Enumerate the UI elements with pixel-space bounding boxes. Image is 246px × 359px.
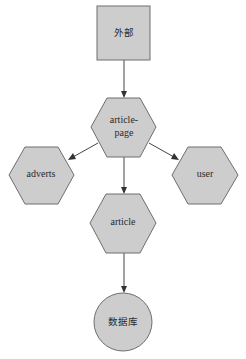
node-label: user bbox=[197, 168, 214, 179]
dependency-diagram: 外部 article- page adverts user article 数据… bbox=[0, 0, 246, 359]
node-label: adverts bbox=[27, 168, 56, 179]
node-database[interactable]: 数据库 bbox=[94, 293, 152, 351]
edge-article-page-to-adverts bbox=[73, 143, 98, 157]
node-label: 数据库 bbox=[108, 316, 138, 327]
node-article[interactable]: article bbox=[90, 194, 156, 253]
node-adverts[interactable]: adverts bbox=[9, 147, 74, 204]
edge-article-page-to-user bbox=[149, 143, 174, 157]
node-external[interactable]: 外部 bbox=[97, 6, 150, 60]
node-label-line-1: article- bbox=[110, 114, 138, 125]
edges bbox=[68, 60, 179, 293]
arrowhead-article bbox=[121, 187, 127, 194]
node-article-page[interactable]: article- page bbox=[91, 98, 156, 157]
node-label: 外部 bbox=[114, 27, 134, 38]
arrowhead-article-page-top bbox=[121, 91, 127, 98]
node-label: article bbox=[111, 216, 137, 227]
node-user[interactable]: user bbox=[172, 147, 238, 204]
node-label-line-2: page bbox=[115, 127, 134, 138]
arrowhead-database bbox=[121, 286, 127, 293]
